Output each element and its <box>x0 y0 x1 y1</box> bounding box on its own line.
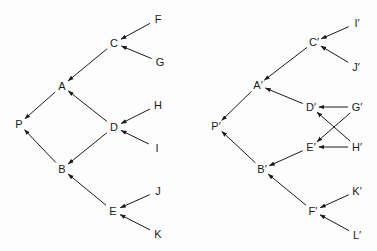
edge-arrow <box>121 23 150 39</box>
node-label: B <box>58 163 65 175</box>
edges-layer <box>25 23 351 230</box>
node-label: I′ <box>354 17 359 29</box>
node-label: F <box>155 13 162 25</box>
diagram-canvas: PABCDEFGHIJKP′A′B′C′D′E′F′I′J′G′H′K′L′ <box>0 0 377 251</box>
edge-arrow <box>264 47 307 80</box>
node-label: C <box>110 37 118 49</box>
edge-arrow <box>68 133 107 164</box>
node-label: P′ <box>211 120 220 132</box>
node-label: H′ <box>352 141 362 153</box>
node-label: E′ <box>306 141 315 153</box>
edge-arrow <box>321 46 348 62</box>
node-label: J <box>155 185 161 197</box>
edge-arrow <box>265 88 302 103</box>
edge-arrow <box>120 195 149 208</box>
tree-diagrams: PABCDEFGHIJKP′A′B′C′D′E′F′I′J′G′H′K′L′ <box>0 0 377 251</box>
node-label: F′ <box>309 205 318 217</box>
edge-arrow <box>120 215 150 230</box>
node-label: K <box>154 228 162 240</box>
edge-arrow <box>25 130 56 163</box>
node-label: K′ <box>352 185 361 197</box>
edge-arrow <box>25 92 55 119</box>
node-label: J′ <box>352 61 360 73</box>
edge-arrow <box>121 131 149 145</box>
nodes-layer: PABCDEFGHIJKP′A′B′C′D′E′F′I′J′G′H′K′L′ <box>15 13 362 241</box>
node-label: A′ <box>253 79 262 91</box>
node-label: C′ <box>309 36 319 48</box>
edge-arrow <box>121 109 150 123</box>
edge-arrow <box>320 215 349 231</box>
edge-arrow <box>222 131 256 162</box>
edge-arrow <box>320 195 349 208</box>
node-label: G′ <box>352 101 363 113</box>
edge-arrow <box>268 174 306 205</box>
edge-arrow <box>68 91 107 121</box>
node-label: D′ <box>306 101 316 113</box>
node-label: I <box>155 142 158 154</box>
edge-arrow <box>68 174 106 205</box>
edge-arrow <box>68 49 107 81</box>
node-label: H <box>154 99 162 111</box>
edge-arrow <box>121 46 151 59</box>
node-label: E <box>109 205 116 217</box>
node-label: A <box>58 80 66 92</box>
node-label: D <box>110 121 118 133</box>
edge-arrow <box>222 91 252 120</box>
edge-arrow <box>321 27 348 39</box>
edge-arrow <box>269 151 302 166</box>
node-label: L′ <box>353 229 361 241</box>
node-label: B′ <box>257 163 266 175</box>
node-label: P <box>15 118 22 130</box>
node-label: G <box>156 56 165 68</box>
